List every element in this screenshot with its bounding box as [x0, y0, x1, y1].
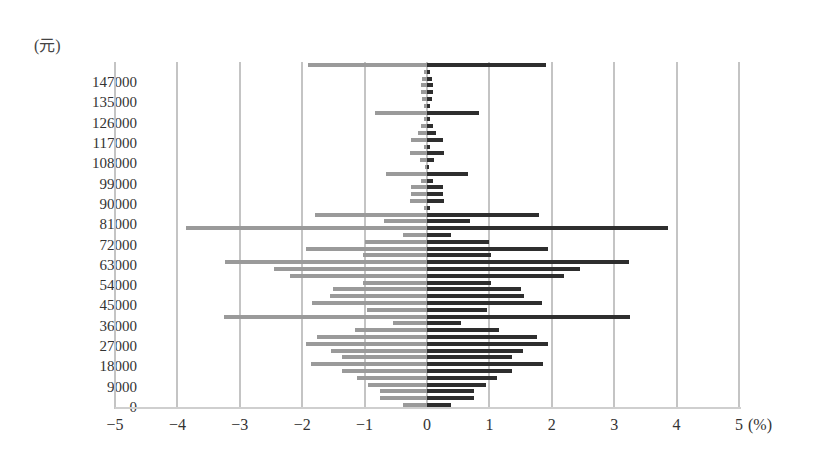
bar-left	[331, 349, 427, 353]
bar-right	[427, 389, 474, 393]
bar-left	[225, 260, 427, 264]
x-tick-label: 2	[548, 416, 556, 434]
bar-right	[427, 77, 432, 81]
bar-right	[427, 151, 444, 155]
gridline	[239, 62, 241, 409]
bar-right	[427, 213, 539, 217]
bar-left	[380, 396, 427, 400]
bar-right	[427, 287, 521, 291]
bar-left	[312, 301, 427, 305]
bar-right	[427, 70, 430, 74]
y-tick-label: 81000	[100, 216, 138, 232]
gridline	[738, 62, 740, 409]
gridline	[114, 62, 116, 409]
gridline	[551, 62, 553, 409]
bar-left	[403, 233, 427, 237]
bar-right	[427, 308, 487, 312]
bar-right	[427, 199, 444, 203]
bar-right	[427, 260, 629, 264]
x-tick-label: −2	[294, 416, 311, 434]
x-tick-label: −1	[356, 416, 373, 434]
x-tick-label: −4	[169, 416, 186, 434]
bar-left	[317, 335, 427, 339]
bar-right	[427, 376, 497, 380]
x-tick-label: 4	[673, 416, 681, 434]
bar-right	[427, 281, 491, 285]
bar-left	[411, 138, 427, 142]
bar-right	[427, 362, 543, 366]
bar-right	[427, 90, 433, 94]
bar-right	[427, 124, 433, 128]
y-tick-label: 27000	[100, 338, 138, 354]
bar-right	[427, 145, 430, 149]
bar-left	[330, 294, 427, 298]
bar-left	[380, 389, 427, 393]
x-axis-line	[115, 407, 741, 409]
bar-right	[427, 97, 432, 101]
bar-right	[427, 131, 436, 135]
bar-right	[427, 342, 548, 346]
x-tick-label: 3	[610, 416, 618, 434]
bar-left	[365, 240, 427, 244]
bar-right	[427, 83, 433, 87]
bar-left	[367, 308, 427, 312]
income-distribution-chart: (元) 147000135000126000117000108000990009…	[0, 0, 827, 472]
bar-left	[411, 192, 427, 196]
bar-right	[427, 355, 512, 359]
bar-left	[403, 403, 427, 407]
bar-right	[427, 247, 548, 251]
bar-right	[427, 233, 451, 237]
bar-left	[410, 199, 427, 203]
bar-right	[427, 301, 542, 305]
bar-right	[427, 138, 443, 142]
bar-right	[427, 165, 429, 169]
bar-left	[418, 131, 427, 135]
bar-left	[308, 63, 427, 67]
gridline	[301, 62, 303, 409]
bar-right	[427, 403, 451, 407]
bar-right	[427, 369, 512, 373]
bar-right	[427, 253, 491, 257]
bar-left	[311, 362, 427, 366]
bar-left	[357, 376, 427, 380]
bar-left	[224, 315, 427, 319]
bar-left	[274, 267, 427, 271]
bar-left	[384, 219, 427, 223]
gridline	[676, 62, 678, 409]
bar-left	[420, 158, 427, 162]
bar-left	[342, 355, 427, 359]
bar-right	[427, 240, 489, 244]
bar-right	[427, 104, 430, 108]
bar-right	[427, 267, 580, 271]
bar-right	[427, 111, 479, 115]
x-tick-label: −5	[106, 416, 123, 434]
bar-right	[427, 274, 564, 278]
bar-left	[368, 383, 427, 387]
bar-right	[427, 63, 546, 67]
bar-right	[427, 349, 523, 353]
x-tick-label: 5	[735, 416, 743, 434]
x-tick-label: −3	[231, 416, 248, 434]
bar-left	[306, 342, 427, 346]
bar-right	[427, 185, 443, 189]
bar-right	[427, 335, 537, 339]
bar-right	[427, 226, 668, 230]
bar-left	[306, 247, 427, 251]
bar-right	[427, 219, 470, 223]
x-tick-label: 1	[485, 416, 493, 434]
bar-left	[411, 185, 427, 189]
bar-left	[375, 111, 427, 115]
bar-left	[393, 321, 427, 325]
bar-left	[410, 151, 427, 155]
bar-left	[290, 274, 427, 278]
bar-right	[427, 158, 434, 162]
bar-right	[427, 396, 474, 400]
y-tick-label: 72000	[100, 237, 138, 253]
y-tick-label: 36000	[100, 318, 138, 334]
bar-left	[363, 253, 427, 257]
bar-right	[427, 206, 430, 210]
y-axis-unit-label: (元)	[34, 32, 61, 56]
bar-right	[427, 192, 443, 196]
gridline	[176, 62, 178, 409]
bar-left	[315, 213, 427, 217]
